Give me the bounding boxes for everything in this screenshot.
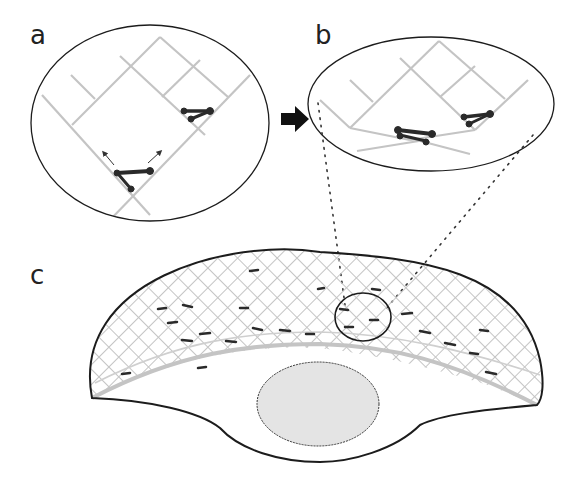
magnified-region-b: [308, 37, 554, 171]
nucleus: [257, 362, 379, 446]
arrow-up-left-icon: [104, 153, 114, 165]
panel-a: [31, 25, 269, 221]
motor-complex-a2: [181, 108, 214, 123]
filament-network-a: [42, 37, 250, 220]
filament-network-b: [320, 41, 528, 154]
panel-b: [308, 37, 554, 171]
motor-complex-b2: [461, 111, 494, 128]
panel-c: [60, 230, 560, 462]
motion-arrows-a: [104, 152, 160, 165]
arrow-up-right-icon: [148, 152, 160, 163]
diagram-canvas: [0, 0, 584, 477]
transition-arrow-icon: [281, 106, 309, 132]
